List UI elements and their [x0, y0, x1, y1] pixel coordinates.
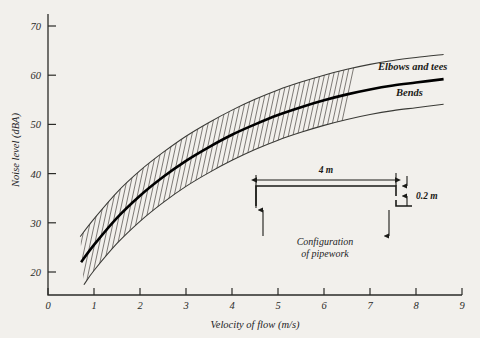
pipework-caption-line-2: of pipework — [301, 248, 349, 259]
y-tick-label: 40 — [31, 169, 42, 180]
x-tick-label: 2 — [137, 300, 143, 311]
y-tick-label: 50 — [31, 119, 42, 130]
pipework-horizontal-dimension-label: 4 m — [318, 165, 334, 175]
x-tick-label: 7 — [367, 300, 373, 311]
x-tick-label: 5 — [275, 300, 280, 311]
y-tick-label: 30 — [30, 218, 42, 229]
y-axis-title: Noise level (dBA) — [10, 112, 22, 188]
y-tick-label: 20 — [31, 267, 42, 278]
x-tick-label: 8 — [413, 300, 419, 311]
y-tick-label: 70 — [31, 21, 42, 32]
x-tick-label: 1 — [91, 300, 96, 311]
pipework-vertical-dimension-label: 0.2 m — [416, 191, 438, 201]
bends-label: Bends — [395, 87, 423, 98]
x-tick-label: 9 — [459, 300, 465, 311]
noise-level-chart: 0123456789 203040506070 Velocity of flow… — [0, 0, 480, 338]
chart-background — [0, 0, 480, 338]
y-tick-label: 60 — [31, 70, 42, 81]
pipework-caption-line-1: Configuration — [297, 236, 354, 247]
x-tick-label: 0 — [45, 300, 51, 311]
x-tick-label: 4 — [229, 300, 235, 311]
x-axis-title: Velocity of flow (m/s) — [211, 319, 300, 331]
x-tick-label: 6 — [321, 300, 327, 311]
elbows-and-tees-label: Elbows and tees — [377, 61, 447, 72]
x-tick-label: 3 — [182, 300, 188, 311]
